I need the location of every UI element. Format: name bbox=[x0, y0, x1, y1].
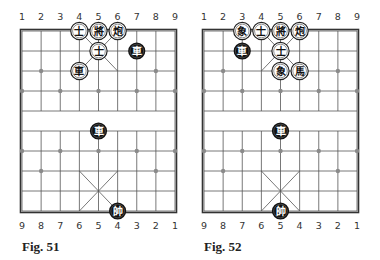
star-point-marker bbox=[202, 89, 206, 93]
star-point-marker bbox=[20, 89, 24, 93]
star-point-marker bbox=[173, 149, 177, 153]
file-label-top: 2 bbox=[38, 11, 44, 22]
piece-glyph: 士 bbox=[276, 45, 286, 57]
file-label-bottom: 2 bbox=[335, 220, 341, 231]
star-point-marker bbox=[240, 149, 244, 153]
file-label-top: 9 bbox=[354, 11, 360, 22]
white-cannon-piece: 炮 bbox=[291, 22, 308, 39]
black-chariot-piece: 車 bbox=[234, 42, 251, 59]
figure-caption: Fig. 51 bbox=[22, 239, 60, 255]
file-label-bottom: 2 bbox=[153, 220, 159, 231]
piece-glyph: 帥 bbox=[113, 205, 123, 217]
file-label-top: 7 bbox=[134, 11, 140, 22]
piece-glyph: 車 bbox=[276, 125, 286, 137]
file-label-top: 1 bbox=[19, 11, 25, 22]
star-point-marker bbox=[135, 149, 139, 153]
star-point-marker bbox=[154, 169, 158, 173]
file-label-bottom: 5 bbox=[277, 220, 283, 231]
file-label-top: 1 bbox=[201, 11, 207, 22]
file-label-top: 2 bbox=[220, 11, 226, 22]
piece-glyph: 炮 bbox=[294, 25, 305, 37]
white-elephant-piece: 象 bbox=[234, 22, 251, 39]
piece-glyph: 士 bbox=[74, 25, 84, 37]
file-label-bottom: 4 bbox=[115, 220, 121, 231]
piece-glyph: 車 bbox=[237, 45, 247, 57]
star-point-marker bbox=[221, 169, 225, 173]
piece-glyph: 將 bbox=[276, 25, 286, 37]
star-point-marker bbox=[240, 89, 244, 93]
white-horse-piece: 馬 bbox=[291, 62, 308, 79]
white-general-piece: 將 bbox=[272, 22, 289, 39]
white-advisor-piece: 士 bbox=[272, 42, 289, 59]
file-label-top: 5 bbox=[277, 11, 283, 22]
white-general-piece: 將 bbox=[90, 22, 107, 39]
star-point-marker bbox=[336, 69, 340, 73]
star-point-marker bbox=[20, 149, 24, 153]
file-label-top: 5 bbox=[95, 11, 101, 22]
piece-glyph: 帥 bbox=[276, 205, 286, 217]
piece-glyph: 車 bbox=[74, 65, 84, 77]
piece-glyph: 象 bbox=[237, 25, 247, 37]
star-point-marker bbox=[96, 89, 100, 93]
piece-glyph: 車 bbox=[94, 125, 104, 137]
star-point-marker bbox=[317, 149, 321, 153]
file-label-bottom: 9 bbox=[201, 220, 207, 231]
black-marshal-piece: 帥 bbox=[272, 202, 289, 219]
file-label-top: 8 bbox=[335, 11, 341, 22]
star-point-marker bbox=[355, 89, 359, 93]
star-point-marker bbox=[58, 89, 62, 93]
file-label-top: 3 bbox=[239, 11, 245, 22]
piece-glyph: 炮 bbox=[112, 25, 123, 37]
file-label-top: 7 bbox=[316, 11, 322, 22]
file-label-bottom: 1 bbox=[354, 220, 360, 231]
file-label-top: 6 bbox=[297, 11, 303, 22]
white-chariot-piece: 車 bbox=[71, 62, 88, 79]
file-label-top: 3 bbox=[57, 11, 63, 22]
star-point-marker bbox=[39, 169, 43, 173]
file-label-bottom: 3 bbox=[134, 220, 140, 231]
file-label-top: 4 bbox=[258, 11, 264, 22]
white-advisor-piece: 士 bbox=[71, 22, 88, 39]
star-point-marker bbox=[58, 149, 62, 153]
figure-51: 123456789987654321士將炮士車車車帥 Fig. 51 bbox=[0, 0, 190, 260]
black-chariot-piece: 車 bbox=[272, 122, 289, 139]
file-label-bottom: 3 bbox=[316, 220, 322, 231]
xiangqi-board-52: 123456789987654321象士將炮車士象馬車帥 bbox=[182, 0, 372, 260]
black-chariot-piece: 車 bbox=[128, 42, 145, 59]
xiangqi-board-51: 123456789987654321士將炮士車車車帥 bbox=[0, 0, 190, 260]
piece-glyph: 士 bbox=[256, 25, 266, 37]
star-point-marker bbox=[154, 69, 158, 73]
piece-glyph: 象 bbox=[276, 65, 286, 77]
star-point-marker bbox=[135, 89, 139, 93]
piece-glyph: 士 bbox=[94, 45, 104, 57]
star-point-marker bbox=[173, 89, 177, 93]
file-label-bottom: 1 bbox=[172, 220, 178, 231]
white-advisor-piece: 士 bbox=[253, 22, 270, 39]
piece-glyph: 將 bbox=[94, 25, 104, 37]
white-cannon-piece: 炮 bbox=[109, 22, 126, 39]
file-label-bottom: 9 bbox=[19, 220, 25, 231]
figure-52: 123456789987654321象士將炮車士象馬車帥 Fig. 52 bbox=[182, 0, 372, 260]
figure-caption: Fig. 52 bbox=[204, 239, 242, 255]
star-point-marker bbox=[39, 69, 43, 73]
file-label-bottom: 6 bbox=[258, 220, 264, 231]
white-elephant-piece: 象 bbox=[272, 62, 289, 79]
file-label-top: 8 bbox=[153, 11, 159, 22]
star-point-marker bbox=[355, 149, 359, 153]
piece-glyph: 馬 bbox=[295, 66, 305, 77]
file-label-bottom: 7 bbox=[239, 220, 245, 231]
star-point-marker bbox=[221, 69, 225, 73]
file-label-top: 4 bbox=[76, 11, 82, 22]
file-label-bottom: 8 bbox=[38, 220, 44, 231]
file-label-bottom: 5 bbox=[95, 220, 101, 231]
star-point-marker bbox=[317, 89, 321, 93]
file-label-bottom: 8 bbox=[220, 220, 226, 231]
black-chariot-piece: 車 bbox=[90, 122, 107, 139]
white-advisor-piece: 士 bbox=[90, 42, 107, 59]
file-label-top: 6 bbox=[115, 11, 121, 22]
star-point-marker bbox=[336, 169, 340, 173]
star-point-marker bbox=[278, 89, 282, 93]
piece-glyph: 車 bbox=[132, 45, 142, 57]
star-point-marker bbox=[202, 149, 206, 153]
file-label-top: 9 bbox=[172, 11, 178, 22]
